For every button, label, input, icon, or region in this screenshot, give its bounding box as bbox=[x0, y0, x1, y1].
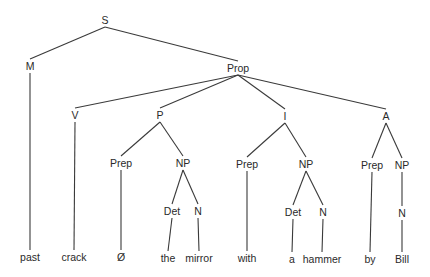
tree-node-prep2: Prep bbox=[235, 159, 259, 170]
tree-edge-NP1-N1 bbox=[183, 170, 198, 204]
leaf-word-w_past: past bbox=[19, 252, 41, 263]
tree-edge-A-Prep3 bbox=[372, 123, 386, 158]
tree-node-prep1: Prep bbox=[109, 158, 133, 169]
tree-edge-Det2-w_a bbox=[292, 219, 293, 252]
leaf-word-w_the: the bbox=[160, 253, 177, 264]
leaf-word-w_null: Ø bbox=[116, 252, 126, 263]
tree-node-m: M bbox=[25, 61, 36, 72]
tree-edge-I-NP2 bbox=[285, 123, 306, 157]
tree-node-n2: N bbox=[318, 207, 328, 218]
tree-edge-P-Prep1 bbox=[121, 122, 160, 156]
tree-node-n3: N bbox=[397, 208, 407, 219]
tree-node-v: V bbox=[70, 110, 79, 121]
tree-node-np1: NP bbox=[175, 158, 192, 169]
tree-edge-P-NP1 bbox=[160, 122, 183, 156]
tree-node-s: S bbox=[100, 15, 109, 26]
leaf-word-w_crack: crack bbox=[60, 252, 87, 263]
tree-edge-N2-w_hammer bbox=[322, 219, 323, 252]
tree-edge-S-M bbox=[30, 27, 105, 59]
tree-edge-S-Prop bbox=[105, 27, 238, 61]
tree-edge-NP2-Det2 bbox=[293, 171, 306, 205]
tree-edge-Prop-V bbox=[75, 75, 238, 108]
tree-edge-Prop-P bbox=[160, 75, 238, 108]
tree-node-p: P bbox=[155, 110, 164, 121]
tree-node-det2: Det bbox=[284, 207, 302, 218]
tree-edges bbox=[0, 0, 430, 277]
tree-node-np2: NP bbox=[298, 159, 315, 170]
tree-edge-NP1-Det1 bbox=[172, 170, 183, 204]
tree-edge-Prop-A bbox=[238, 75, 386, 109]
tree-edge-NP2-N2 bbox=[306, 171, 323, 205]
leaf-word-w_with: with bbox=[237, 253, 258, 264]
leaf-word-w_a: a bbox=[288, 254, 296, 265]
tree-node-prep3: Prep bbox=[360, 160, 384, 171]
leaf-word-w_bill: Bill bbox=[394, 254, 410, 265]
leaf-word-w_by: by bbox=[363, 254, 376, 265]
tree-node-det1: Det bbox=[163, 206, 181, 217]
tree-node-n1: N bbox=[193, 206, 203, 217]
tree-edge-V-w_crack bbox=[74, 122, 75, 250]
tree-node-a: A bbox=[381, 111, 390, 122]
tree-node-prop: Prop bbox=[226, 63, 250, 74]
tree-edge-A-NP3 bbox=[386, 123, 402, 158]
tree-node-i: I bbox=[283, 111, 288, 122]
tree-node-np3: NP bbox=[394, 160, 411, 171]
leaf-word-w_mirror: mirror bbox=[184, 253, 213, 264]
tree-edge-Det1-w_the bbox=[168, 218, 172, 251]
leaf-word-w_hammer: hammer bbox=[302, 254, 343, 265]
tree-edge-I-Prep2 bbox=[247, 123, 285, 157]
tree-edge-N1-w_mirror bbox=[198, 218, 199, 251]
tree-edge-Prep3-w_by bbox=[370, 172, 372, 252]
